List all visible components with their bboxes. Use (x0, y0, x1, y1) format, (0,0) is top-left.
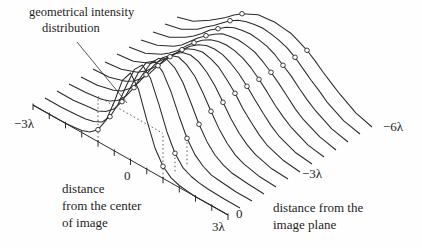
geometric-edge-marker (108, 114, 113, 119)
intensity-curve-depth--5.5 (165, 20, 360, 134)
depth-tick-label-zero: 0 (236, 205, 243, 222)
x-axis-title-line3: of image (62, 214, 141, 231)
x-tick-label-plus3: 3λ (212, 218, 225, 235)
geometric-edge-marker (161, 164, 166, 169)
geometric-edge-marker (144, 72, 149, 77)
waterfall-figure: geometrical intensity distribution −3λ 0… (0, 0, 422, 248)
geometric-edge-marker (233, 91, 238, 96)
depth-axis-title: distance from the image plane (273, 199, 363, 233)
depth-axis-title-line2: image plane (273, 216, 363, 233)
geometric-edge-marker (132, 85, 137, 90)
geometric-edge-marker (168, 54, 173, 59)
geometric-edge-marker (192, 40, 197, 45)
intensity-curve-depth--6 (177, 14, 372, 127)
geometric-edge-marker (305, 48, 310, 53)
x-axis-title: distance from the center of image (62, 180, 141, 231)
geometric-edge-marker (185, 136, 190, 141)
geometric-edge-marker (245, 84, 250, 89)
geometric-edge-marker (269, 70, 274, 75)
annotation-line1: geometrical intensity (29, 5, 134, 19)
geometric-edge-marker (120, 99, 125, 104)
geometric-edge-marker (228, 18, 233, 23)
geometric-edge-marker (257, 77, 262, 82)
depth-tick-label-minus3: −3λ (302, 165, 322, 182)
geometric-edge-marker (209, 109, 214, 114)
depth-axis-title-line1: distance from the (273, 199, 363, 216)
geometric-edge-marker (240, 11, 245, 16)
geometric-edge-marker (173, 151, 178, 156)
geometric-edge-marker (180, 47, 185, 52)
geometric-edge-marker (204, 33, 209, 38)
annotation-leader-line (77, 42, 127, 103)
geometric-edge-marker (221, 100, 226, 105)
x-axis-title-line2: from the center (62, 197, 141, 214)
geometric-edge-marker (156, 63, 161, 68)
geometric-edge-marker (281, 63, 286, 68)
geometric-edge-marker (293, 55, 298, 60)
x-tick-label-minus3: −3λ (14, 115, 34, 132)
intensity-curve-depth--2.5 (93, 52, 288, 179)
geometric-edge-marker (216, 26, 221, 31)
annotation-geometrical-intensity: geometrical intensity distribution (29, 4, 134, 36)
geometric-top-dotted (98, 97, 163, 134)
annotation-line2: distribution (29, 20, 134, 36)
x-axis-title-line1: distance (62, 180, 141, 197)
depth-tick-label-minus6: −6λ (383, 118, 403, 135)
geometric-edge-marker (197, 122, 202, 127)
geometric-edge-marker (96, 127, 101, 132)
